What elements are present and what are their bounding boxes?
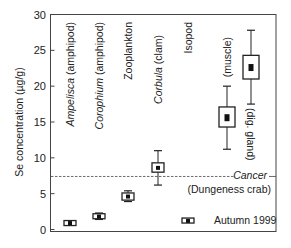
reference-line-sublabel: (Dungeness crab) (188, 183, 271, 195)
y-tick-label: 30 (34, 9, 46, 21)
category-label: Zooplankton (122, 22, 134, 80)
category-label: Corbula (clam) (152, 35, 164, 104)
box-marker (219, 86, 235, 149)
y-tick-label: 15 (34, 116, 46, 128)
legend: Autumn 1999 (214, 214, 277, 226)
legend-label: Autumn 1999 (214, 214, 277, 226)
selenium-box-chart: 051015202530 Se concentration (µg/g) Can… (0, 0, 291, 248)
box-marker (243, 30, 259, 104)
y-axis: 051015202530 (34, 9, 55, 236)
category-label: (muscle) (221, 37, 233, 77)
y-axis-title: Se concentration (µg/g) (13, 67, 25, 176)
box-marker (122, 191, 134, 202)
reference-line-cancer: Cancer(Dungeness crab) (51, 169, 276, 195)
category-label: Isopod (182, 22, 194, 54)
reference-line-label: Cancer (233, 169, 267, 181)
y-tick-label: 0 (40, 224, 46, 236)
y-tick-label: 5 (40, 188, 46, 200)
y-tick-label: 20 (34, 80, 46, 92)
category-label: (dig. gland) (245, 108, 257, 161)
y-tick-label: 25 (34, 44, 46, 56)
box-marker (93, 213, 105, 219)
category-labels: Ampelisca (amphipod)Corophium (amphipod)… (64, 22, 257, 161)
box-marker (64, 221, 76, 226)
box-marker (182, 218, 194, 223)
y-tick-label: 10 (34, 152, 46, 164)
category-label: Ampelisca (amphipod) (64, 22, 76, 127)
box-marker (152, 151, 164, 185)
category-label: Corophium (amphipod) (93, 22, 105, 129)
